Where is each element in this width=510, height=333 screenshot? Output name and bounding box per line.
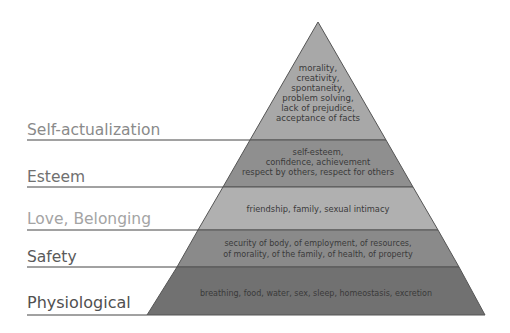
layer-safety (177, 230, 459, 267)
level-label-love-belonging: Love, Belonging (27, 210, 151, 228)
svg-text:acceptance of facts: acceptance of facts (276, 113, 361, 123)
svg-text:morality,: morality, (299, 63, 337, 73)
maslow-pyramid-diagram: Self-actualization Esteem Love, Belongin… (0, 0, 510, 333)
svg-text:of morality, of the family, of: of morality, of the family, of health, o… (223, 250, 413, 259)
svg-text:respect by others, respect for: respect by others, respect for others (242, 167, 394, 177)
svg-text:confidence, achievement: confidence, achievement (266, 157, 371, 167)
level-label-self-actualization: Self-actualization (27, 121, 160, 139)
level-label-safety: Safety (27, 248, 77, 266)
svg-text:problem solving,: problem solving, (282, 93, 354, 103)
level-label-esteem: Esteem (27, 168, 85, 186)
description-love-belonging: friendship, family, sexual intimacy (247, 204, 390, 214)
svg-text:lack of prejudice,: lack of prejudice, (281, 103, 355, 113)
svg-text:spontaneity,: spontaneity, (291, 83, 345, 93)
svg-text:self-esteem,: self-esteem, (293, 147, 344, 157)
svg-text:friendship, family, sexual int: friendship, family, sexual intimacy (247, 204, 390, 214)
level-label-physiological: Physiological (27, 293, 131, 312)
svg-text:creativity,: creativity, (296, 73, 339, 83)
description-physiological: breathing, food, water, sex, sleep, home… (200, 289, 432, 298)
svg-text:security of body, of employmen: security of body, of employment, of reso… (224, 239, 411, 248)
svg-text:breathing, food, water, sex, s: breathing, food, water, sex, sleep, home… (200, 289, 432, 298)
